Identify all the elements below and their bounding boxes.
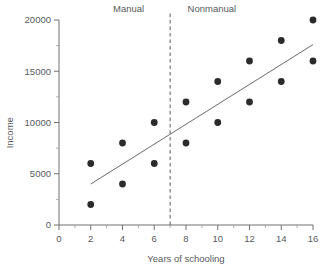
x-tick-label: 16 (308, 233, 319, 244)
y-tick-label: 20000 (25, 14, 51, 25)
data-point (87, 201, 94, 208)
data-point (246, 58, 253, 65)
region-annotations: ManualNonmanual (113, 3, 236, 14)
data-point (119, 140, 126, 147)
region-label-right: Nonmanual (188, 3, 237, 14)
y-axis-title: Income (4, 117, 15, 148)
axis-titles: Years of schoolingIncome (4, 117, 225, 264)
trend-line (91, 45, 313, 184)
x-axis-title: Years of schooling (147, 253, 224, 264)
y-tick-label: 5000 (30, 168, 51, 179)
data-point (183, 140, 190, 147)
x-tick-label: 12 (244, 233, 255, 244)
data-point (278, 37, 285, 44)
scatter-chart: 05000100001500020000 0246810121416 Manua… (0, 0, 321, 270)
region-label-left: Manual (113, 3, 144, 14)
data-point (310, 17, 317, 24)
data-points (87, 17, 316, 208)
data-point (310, 58, 317, 65)
y-tick-label: 0 (46, 219, 51, 230)
y-tick-label: 10000 (25, 117, 51, 128)
y-tick-label: 15000 (25, 66, 51, 77)
x-tick-label: 4 (120, 233, 125, 244)
chart-canvas: 05000100001500020000 0246810121416 Manua… (0, 0, 321, 270)
data-point (183, 99, 190, 106)
x-tick-label: 8 (183, 233, 188, 244)
x-tick-label: 0 (56, 233, 61, 244)
y-axis: 05000100001500020000 (25, 14, 59, 230)
data-point (214, 119, 221, 126)
x-tick-label: 6 (152, 233, 157, 244)
data-point (214, 78, 221, 85)
x-tick-label: 14 (276, 233, 287, 244)
data-point (278, 78, 285, 85)
x-tick-label: 2 (88, 233, 93, 244)
data-point (151, 119, 158, 126)
data-point (151, 160, 158, 167)
data-point (246, 99, 253, 106)
regression-line (91, 45, 313, 184)
x-axis: 0246810121416 (56, 225, 318, 244)
data-point (119, 181, 126, 188)
data-point (87, 160, 94, 167)
x-tick-label: 10 (212, 233, 223, 244)
